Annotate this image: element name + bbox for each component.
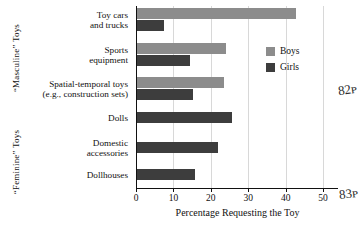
bar-girls: [137, 89, 193, 100]
category-label-line: Domestic: [16, 138, 128, 148]
category-label: Domesticaccessories: [16, 138, 128, 158]
x-tick: [248, 188, 249, 192]
margin-scribble-top: 82ᴘ: [337, 81, 358, 99]
gridline: [248, 6, 249, 188]
legend-item: Girls: [266, 60, 300, 74]
x-tick-label: 50: [308, 193, 338, 203]
x-tick: [173, 188, 174, 192]
category-label-line: Dolls: [16, 113, 128, 123]
bar-girls: [137, 169, 195, 180]
margin-scribble-bottom: 83ᴘ: [338, 185, 359, 203]
bar-girls: [137, 55, 190, 66]
legend-label: Boys: [280, 46, 300, 56]
category-label: Spatial-temporal toys(e.g., construction…: [16, 79, 128, 99]
legend-label: Girls: [280, 62, 299, 72]
x-tick-label: 20: [196, 193, 226, 203]
category-label: Sportsequipment: [16, 45, 128, 65]
bar-girls: [137, 142, 218, 153]
bar-boys: [137, 43, 226, 54]
legend-swatch-icon: [266, 63, 275, 72]
gridline: [286, 6, 287, 188]
x-tick-label: 30: [233, 193, 263, 203]
chart-legend: BoysGirls: [266, 44, 300, 76]
category-label-line: Spatial-temporal toys: [16, 79, 128, 89]
category-label-line: equipment: [16, 55, 128, 65]
bar-girls: [137, 112, 232, 123]
x-tick: [323, 188, 324, 192]
category-label: Toy carsand trucks: [16, 10, 128, 30]
x-axis-label: Percentage Requesting the Toy: [120, 207, 355, 218]
category-label-line: (e.g., construction sets): [16, 89, 128, 99]
x-axis-line: [136, 188, 338, 189]
legend-item: Boys: [266, 44, 300, 58]
plot-area: [136, 6, 338, 188]
x-tick-label: 40: [271, 193, 301, 203]
x-tick: [286, 188, 287, 192]
x-tick: [211, 188, 212, 192]
bar-boys: [137, 8, 296, 19]
category-label: Dollhouses: [16, 170, 128, 180]
category-label-line: and trucks: [16, 20, 128, 30]
gridline: [211, 6, 212, 188]
category-label-line: Toy cars: [16, 10, 128, 20]
gridline: [323, 6, 324, 188]
x-tick: [136, 188, 137, 192]
x-tick-label: 10: [158, 193, 188, 203]
legend-swatch-icon: [266, 47, 275, 56]
category-axis: Toy carsand trucksSportsequipmentSpatial…: [20, 6, 132, 188]
category-label-line: Sports: [16, 45, 128, 55]
category-label-line: accessories: [16, 148, 128, 158]
x-tick-label: 0: [121, 193, 151, 203]
bar-girls: [137, 20, 164, 31]
bar-boys: [137, 77, 224, 88]
category-label-line: Dollhouses: [16, 170, 128, 180]
category-label: Dolls: [16, 113, 128, 123]
